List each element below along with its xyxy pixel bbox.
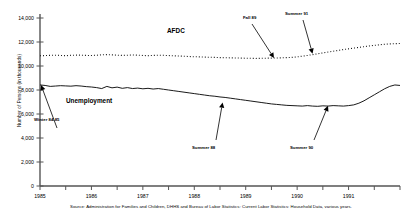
series-line-afdc bbox=[40, 43, 400, 58]
chart-plot-area: 02,0004,0006,0008,00010,00012,00014,000 … bbox=[0, 0, 408, 222]
annotation-label-summer-91: Summer 91 bbox=[285, 11, 308, 16]
series-label-afdc: AFDC bbox=[167, 27, 185, 34]
annotation-label-fall-89: Fall 89 bbox=[243, 15, 256, 20]
annotation-arrow bbox=[303, 20, 314, 54]
x-tick-label: 1988 bbox=[189, 193, 201, 199]
x-tick-label: 1986 bbox=[86, 193, 98, 199]
x-tick-label: 1987 bbox=[137, 193, 149, 199]
x-tick-label: 1990 bbox=[291, 193, 303, 199]
annotation-arrow bbox=[314, 106, 328, 140]
y-tick-label: 10,000 bbox=[18, 63, 34, 69]
y-tick-label: 8,000 bbox=[21, 87, 34, 93]
x-tick-label: 1991 bbox=[343, 193, 355, 199]
series-label-unemployment: Unemployment bbox=[66, 97, 112, 104]
annotation-arrow bbox=[252, 24, 274, 58]
y-tick-label: 6,000 bbox=[21, 111, 34, 117]
y-axis: 02,0004,0006,0008,00010,00012,00014,000 bbox=[18, 14, 43, 189]
y-tick-label: 12,000 bbox=[18, 39, 34, 45]
y-tick-label: 14,000 bbox=[18, 15, 34, 21]
annotation-arrows bbox=[40, 20, 328, 140]
x-tick-label: 1989 bbox=[240, 193, 252, 199]
y-tick-label: 0 bbox=[31, 183, 34, 189]
chart-figure: Number of Persons (in thousands) 02,0004… bbox=[0, 0, 408, 222]
x-tick-label: 1985 bbox=[34, 193, 46, 199]
x-axis: 1985198619871988198919901991 bbox=[34, 186, 400, 199]
source-note: Source: Administration for Families and … bbox=[70, 204, 352, 209]
y-tick-label: 4,000 bbox=[21, 135, 34, 141]
annotation-label-summer-90: Summer 90 bbox=[290, 145, 313, 150]
annotation-arrow bbox=[216, 102, 224, 140]
y-tick-label: 2,000 bbox=[21, 159, 34, 165]
annotation-label-winter-84-85: Winter 84-85 bbox=[34, 117, 60, 122]
annotation-label-summer-88: Summer 88 bbox=[192, 145, 215, 150]
